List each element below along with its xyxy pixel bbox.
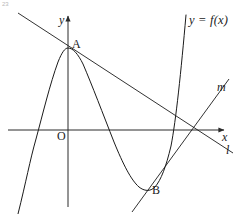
math-figure-canvas: 23 A B O y x l m y = f(x) [0,0,239,214]
label-x-axis: x [222,131,227,143]
label-function-expression: y = f(x) [189,14,228,27]
label-origin: O [57,130,66,142]
cubic-curve-fx [18,15,186,214]
line-m [132,79,229,212]
label-y-axis: y [59,14,64,26]
label-line-m: m [217,81,226,93]
label-line-l: l [226,144,229,156]
corner-page-tag: 23 [2,1,9,7]
label-point-a: A [72,38,81,50]
line-l [18,13,233,153]
figure-vector-graphic [0,0,239,214]
label-point-b: B [152,184,160,196]
